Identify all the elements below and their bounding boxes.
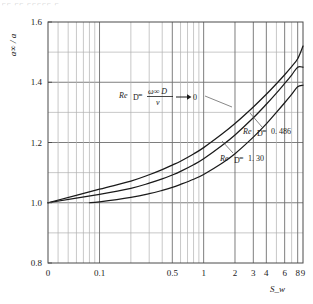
grid-major-horizontal [48, 82, 303, 203]
data-curve-2 [89, 85, 303, 202]
x-tick-label: 0.1 [94, 268, 105, 278]
x-axis-label-text: S_w [270, 284, 285, 294]
data-curve-0 [48, 46, 303, 203]
x-tick-label: 0 [46, 268, 51, 278]
y-tick-label: 0.8 [31, 258, 43, 268]
y-tick-label: 1.2 [31, 138, 42, 148]
y-tick-label: 1.0 [31, 198, 43, 208]
figure-container: ⌐⌐ ⌐⌐ ⌐⌐⌐⌐⌐ ⌐ 1.61.41.21.00.8 00.10.5123… [0, 0, 313, 304]
y-axis-label: a∞ / a [8, 33, 18, 56]
x-tick-label: 9 [301, 268, 306, 278]
data-curves [48, 46, 303, 203]
annot-re-130-eq: = [239, 154, 244, 163]
annot-re-0486-re: Re [242, 127, 252, 136]
annot-re-0486-value: 0. 486 [271, 127, 291, 136]
grid-line [205, 96, 232, 107]
x-tick-label: 1 [201, 268, 206, 278]
top-text-fragment: ⌐⌐ ⌐⌐ ⌐⌐⌐⌐⌐ ⌐ [2, 0, 60, 8]
x-tick-label: 4 [264, 268, 269, 278]
annot-re-zero-numerator: ω∞ D [148, 87, 167, 96]
x-tick-label: 8 [295, 268, 300, 278]
chart-plot: 1.61.41.21.00.8 00.10.51234689 Re D = ω∞… [0, 0, 313, 304]
x-tick-label: 3 [251, 268, 256, 278]
x-axis-tick-labels: 00.10.51234689 [46, 268, 306, 278]
annot-re-130-value: 1. 30 [248, 154, 264, 163]
y-tick-label: 1.4 [31, 77, 43, 87]
annot-re-0486-eq: = [262, 127, 267, 136]
x-tick-label: 6 [282, 268, 287, 278]
x-tick-label: 0.5 [167, 268, 179, 278]
annot-re-zero-eq: = [138, 91, 143, 100]
annot-re-130: Re D = 1. 30 [219, 154, 264, 165]
y-axis-tick-labels: 1.61.41.21.00.8 [31, 17, 52, 268]
annot-re-130-re: Re [219, 154, 229, 163]
y-axis-label-text: a∞ / a [8, 33, 18, 56]
annot-re-zero-re: Re [118, 91, 128, 100]
annot-re-zero-denominator: ν [156, 98, 160, 107]
x-tick-label: 2 [233, 268, 238, 278]
annot-re-zero-limit: 0 [193, 93, 197, 102]
right-arrow-icon [176, 94, 192, 100]
y-tick-label: 1.6 [31, 17, 43, 27]
annot-re-zero: Re D = ω∞ D ν 0 [118, 87, 197, 107]
